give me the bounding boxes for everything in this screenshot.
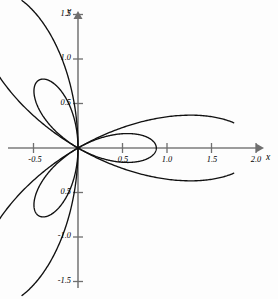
x-axis-label: x	[266, 152, 270, 162]
y-tick-label-neg0-5: 0.5	[47, 187, 71, 196]
y-tick-label-0-5: 0.5	[47, 98, 71, 107]
x-tick-label-0-5: 0.5	[111, 155, 135, 164]
y-tick-label-1-0: 1.0	[47, 53, 71, 62]
x-tick-label-2-0: 2.0	[244, 155, 268, 164]
x-tick-label-1-5: 1.5	[200, 155, 224, 164]
x-tick-label-1-0: 1.0	[155, 155, 179, 164]
y-tick-label-neg1-0: -1.0	[45, 231, 71, 240]
x-axis-arrowhead	[256, 144, 264, 153]
y-axis-label: y	[67, 6, 71, 16]
x-tick-label-neg0-5: -0.5	[22, 155, 48, 164]
plot-canvas	[0, 0, 278, 299]
polar-rose-figure: -0.5 0.5 1.0 1.5 2.0 1.5 1.0 0.5 0.5 -1.…	[0, 0, 278, 299]
y-tick-label-neg1-5: -1.5	[45, 276, 71, 285]
